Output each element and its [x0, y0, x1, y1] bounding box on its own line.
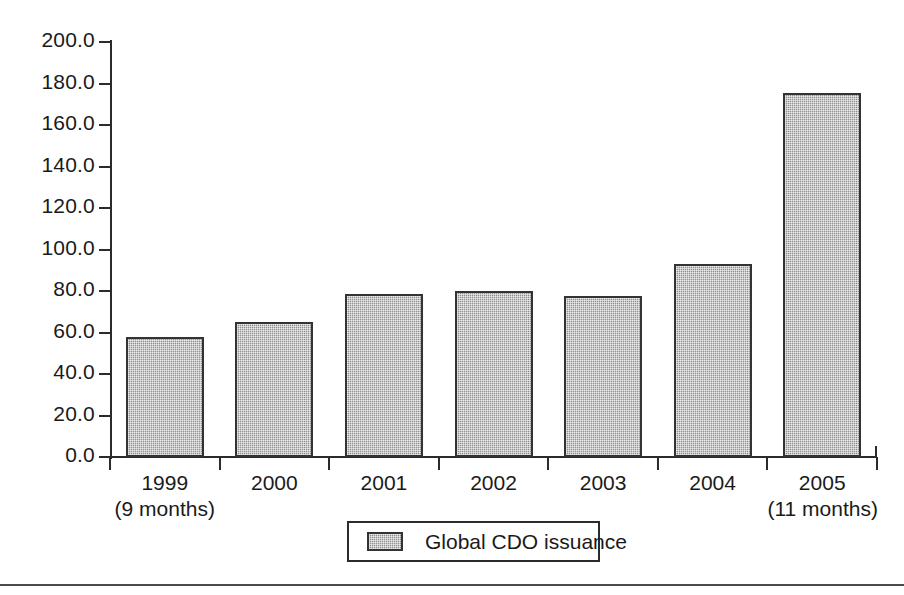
bar-2000	[235, 322, 313, 457]
plot-area	[110, 42, 875, 457]
x-axis-tick	[109, 457, 111, 470]
x-axis-tick	[657, 457, 659, 470]
chart-legend: Global CDO issuance	[347, 521, 600, 562]
y-axis-tick-label: 100.0	[7, 236, 95, 260]
bar-2002	[455, 291, 533, 457]
y-axis-tick	[99, 41, 110, 43]
bar-2003	[564, 296, 642, 457]
y-axis-tick-label: 160.0	[7, 111, 95, 135]
x-axis-category-1999: 1999(9 months)	[110, 470, 220, 522]
x-axis-tick	[328, 457, 330, 470]
y-axis-tick	[99, 166, 110, 168]
x-axis-category-2003: 2003	[548, 470, 658, 496]
y-axis-tick-label: 120.0	[7, 194, 95, 218]
x-axis-category-year: 2004	[658, 470, 768, 496]
x-axis-category-year: 1999	[110, 470, 220, 496]
y-axis-tick-label: 180.0	[7, 70, 95, 94]
x-axis-tick	[219, 457, 221, 470]
y-axis-tick-label: 140.0	[7, 153, 95, 177]
y-axis-tick	[99, 415, 110, 417]
y-axis-tick-label: 200.0	[7, 28, 95, 52]
y-axis-tick	[99, 83, 110, 85]
y-axis-tick	[99, 207, 110, 209]
x-axis-category-2004: 2004	[658, 470, 768, 496]
y-axis-labels: 200.0180.0160.0140.0120.0100.080.060.040…	[0, 0, 95, 595]
bar-2005	[783, 93, 861, 457]
y-axis-tick	[99, 373, 110, 375]
x-axis-tick	[876, 457, 878, 470]
x-axis-category-year: 2002	[439, 470, 549, 496]
y-axis-tick	[99, 249, 110, 251]
x-axis-tick	[766, 457, 768, 470]
legend-label-global-cdo-issuance: Global CDO issuance	[425, 530, 627, 554]
bar-2001	[345, 294, 423, 457]
x-axis-category-2005: 2005(11 months)	[767, 470, 877, 522]
y-axis-tick-label: 0.0	[7, 443, 95, 467]
y-axis-tick	[99, 332, 110, 334]
x-axis-category-year: 2003	[548, 470, 658, 496]
x-axis-category-2001: 2001	[329, 470, 439, 496]
y-axis-tick-label: 80.0	[7, 277, 95, 301]
x-axis-category-year: 2005	[767, 470, 877, 496]
x-axis-category-2000: 2000	[220, 470, 330, 496]
y-axis-tick-label: 60.0	[7, 319, 95, 343]
y-axis-tick	[99, 124, 110, 126]
x-axis-tick	[547, 457, 549, 470]
bar-2004	[674, 264, 752, 457]
x-axis-category-year: 2001	[329, 470, 439, 496]
y-axis-tick-label: 40.0	[7, 360, 95, 384]
bar-1999	[126, 337, 204, 457]
y-axis-tick-label: 20.0	[7, 402, 95, 426]
x-axis-tick	[438, 457, 440, 470]
x-axis-category-sublabel: (11 months)	[767, 496, 877, 522]
legend-swatch-global-cdo-issuance	[367, 532, 403, 551]
y-axis-tick	[99, 290, 110, 292]
chart-figure: 200.0180.0160.0140.0120.0100.080.060.040…	[0, 0, 904, 595]
x-axis-category-year: 2000	[220, 470, 330, 496]
x-axis-category-sublabel: (9 months)	[110, 496, 220, 522]
page-divider-rule	[0, 584, 904, 586]
x-axis-category-2002: 2002	[439, 470, 549, 496]
